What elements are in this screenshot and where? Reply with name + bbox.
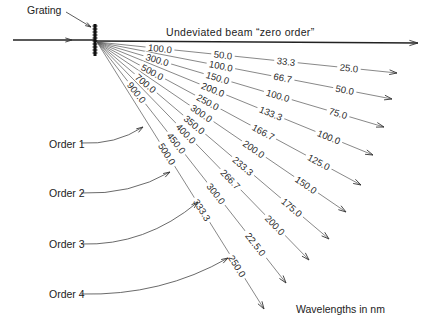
ray-arrow-icon [353,179,361,185]
units-label: Wavelengths in nm [296,303,385,315]
order-4-callout [81,258,228,294]
order-1-arrow-icon [136,127,143,132]
wavelength-value: 66.7 [273,71,293,85]
zero-order-label: Undeviated beam “zero order” [166,26,314,38]
wavelength-value: 100.0 [316,127,342,146]
grating-pointer [66,12,91,27]
wavelength-value: 75.0 [328,106,349,122]
order-2-label: Order 2 [49,187,85,199]
order-3-label: Order 3 [49,238,85,250]
wavelength-value: 33.3 [276,55,296,68]
wavelength-value: 25.0 [339,62,359,75]
wavelength-value: 100.0 [265,87,291,104]
order-1-label: Order 1 [49,138,85,150]
wavelength-value: 133.3 [258,104,284,123]
order-4-arrow-icon [221,258,228,263]
order-3-callout [81,202,198,244]
grating-diagram: 100.050.033.325.0100.066.750.0300.0150.0… [0,0,423,324]
grating-pointer-arrow-icon [85,23,91,27]
wavelength-value: 166.7 [250,122,276,143]
order-1-callout [81,127,143,143]
ray-arrow-icon [338,206,346,212]
zero-order-beam [95,41,418,43]
wavelength-value: 250.0 [226,253,248,279]
ray-arrow-icon [258,301,264,309]
wavelength-value: 333.3 [191,197,213,223]
wavelength-value: 50.0 [335,83,355,97]
order-2-arrow-icon [163,172,170,177]
wavelength-value: 125.0 [306,152,332,173]
order-2-callout [81,172,170,193]
wavelength-value: 22.5.0 [243,231,268,259]
order-4-label: Order 4 [49,288,85,300]
grating-label: Grating [27,4,61,16]
diagram-canvas: 100.050.033.325.0100.066.750.0300.0150.0… [0,0,423,324]
